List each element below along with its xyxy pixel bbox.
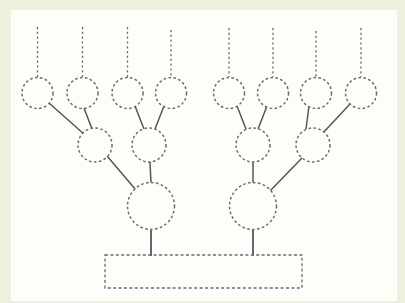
- leaf-node-l8[interactable]: [346, 78, 377, 109]
- edge-l6-m3: [258, 106, 267, 129]
- leaf-node-l1[interactable]: [22, 78, 53, 109]
- edge-l8-m4: [322, 104, 350, 134]
- root-nodes-group[interactable]: [128, 183, 277, 230]
- diagram-canvas: [0, 0, 405, 303]
- edge-m4-r2: [270, 158, 302, 191]
- leaf-node-l7[interactable]: [301, 78, 332, 109]
- edge-l3-m2: [135, 106, 144, 129]
- leaf-node-l5[interactable]: [214, 78, 245, 109]
- container-box-group[interactable]: [105, 255, 302, 288]
- mid-node-m3[interactable]: [236, 128, 270, 162]
- edge-l7-m4: [306, 106, 309, 129]
- mid-node-m1[interactable]: [78, 128, 112, 162]
- root-node-r1[interactable]: [128, 183, 175, 230]
- mid-node-m2[interactable]: [132, 128, 166, 162]
- leaf-node-l3[interactable]: [112, 78, 143, 109]
- root-stems-group: [151, 230, 253, 256]
- leaf-node-l4[interactable]: [156, 78, 187, 109]
- leaf-node-l2[interactable]: [67, 78, 98, 109]
- root-node-r2[interactable]: [230, 183, 277, 230]
- leaf-stubs-group: [38, 27, 362, 77]
- mid-node-m4[interactable]: [296, 128, 330, 162]
- edge-l5-m3: [237, 106, 246, 129]
- edge-m2-r1: [150, 162, 151, 183]
- container-rectangle[interactable]: [105, 255, 302, 288]
- edge-m1-r1: [107, 156, 136, 190]
- leaf-nodes-group[interactable]: [22, 78, 377, 109]
- tree-diagram-svg: [0, 0, 405, 303]
- leaf-node-l6[interactable]: [258, 78, 289, 109]
- mid-nodes-group[interactable]: [78, 128, 330, 162]
- edge-l2-m1: [84, 108, 92, 129]
- edge-l4-m2: [155, 106, 164, 129]
